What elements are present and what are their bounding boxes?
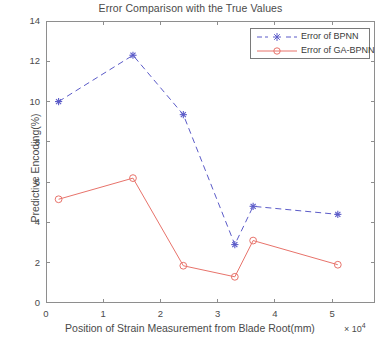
y-tick-label: 14 (29, 15, 40, 26)
plot-area (46, 21, 375, 303)
series-bpnn (55, 52, 341, 249)
x-tick-label: 4 (255, 308, 295, 319)
y-tick-mark (371, 222, 375, 223)
data-point-marker (334, 261, 341, 268)
x-axis-exponent-base: × 10 (344, 324, 362, 334)
y-tick-mark (46, 262, 50, 263)
chart-figure: Error Comparison with the True Values 02… (0, 0, 381, 342)
legend-entry-ga-bpnn[interactable]: Error of GA-BPNN (251, 44, 371, 58)
y-tick-mark (371, 101, 375, 102)
legend-sample-ga-bpnn-icon (255, 44, 299, 58)
x-tick-mark (160, 299, 161, 303)
series-line (59, 178, 338, 277)
y-tick-mark (371, 182, 375, 183)
x-tick-label: 0 (26, 308, 66, 319)
data-point-marker (231, 241, 238, 248)
y-tick-label: 0 (35, 297, 40, 308)
x-axis-exponent-power: 4 (362, 322, 366, 329)
legend-entry-bpnn[interactable]: Error of BPNN (251, 30, 371, 44)
legend-label-bpnn: Error of BPNN (301, 31, 359, 41)
x-tick-mark (160, 21, 161, 25)
x-tick-mark (103, 21, 104, 25)
y-tick-mark (46, 61, 50, 62)
legend-label-ga-bpnn: Error of GA-BPNN (301, 45, 375, 55)
y-tick-mark (46, 101, 50, 102)
legend-sample-bpnn-icon (255, 30, 299, 44)
x-tick-label: 2 (140, 308, 180, 319)
x-axis-exponent: × 104 (344, 322, 366, 334)
x-tick-mark (332, 299, 333, 303)
x-tick-label: 3 (198, 308, 238, 319)
y-axis-label: Predictive Encoding(%) (29, 48, 41, 288)
x-tick-mark (332, 21, 333, 25)
x-axis-label: Position of Strain Measurement from Blad… (40, 322, 340, 334)
x-tick-label: 1 (83, 308, 123, 319)
x-tick-mark (274, 21, 275, 25)
series-layer (55, 52, 341, 281)
series-ga-bpnn (55, 175, 341, 280)
y-axis-label-wrapper: Predictive Encoding(%) (12, 22, 26, 302)
data-point-marker (180, 111, 187, 118)
y-tick-mark (46, 222, 50, 223)
y-tick-mark (46, 141, 50, 142)
y-tick-mark (46, 182, 50, 183)
data-point-marker (250, 203, 257, 210)
y-tick-mark (371, 262, 375, 263)
chart-legend: Error of BPNN Error of GA-BPNN (250, 28, 370, 59)
data-point-marker (334, 211, 341, 218)
data-point-marker (55, 98, 62, 105)
x-tick-mark (274, 299, 275, 303)
x-tick-mark (217, 21, 218, 25)
y-tick-mark (371, 141, 375, 142)
data-point-marker (129, 52, 136, 59)
chart-title: Error Comparison with the True Values (0, 2, 381, 14)
x-tick-mark (103, 299, 104, 303)
y-tick-mark (371, 61, 375, 62)
x-tick-label: 5 (312, 308, 352, 319)
x-tick-mark (217, 299, 218, 303)
data-point-marker (55, 196, 62, 203)
series-line (59, 55, 338, 244)
